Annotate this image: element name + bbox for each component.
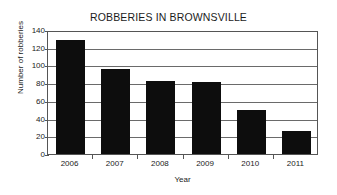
x-tick-label: 2007 bbox=[95, 159, 135, 168]
chart-title: ROBBERIES IN BROWNSVILLE bbox=[0, 11, 337, 23]
x-tick-mark bbox=[183, 155, 184, 159]
x-tick-label: 2008 bbox=[140, 159, 180, 168]
x-tick-mark bbox=[273, 155, 274, 159]
y-tick-label: 120 bbox=[5, 45, 45, 53]
gridline bbox=[48, 137, 317, 138]
bar bbox=[56, 40, 85, 154]
x-tick-label: 2006 bbox=[50, 159, 90, 168]
x-tick-mark bbox=[137, 155, 138, 159]
y-axis-ticks: 020406080100120140 bbox=[0, 31, 45, 155]
x-tick-mark bbox=[92, 155, 93, 159]
plot-area bbox=[47, 31, 318, 155]
y-tick-label: 40 bbox=[5, 116, 45, 124]
x-axis-title: Year bbox=[47, 175, 318, 184]
y-tick-label: 60 bbox=[5, 98, 45, 106]
gridline bbox=[48, 120, 317, 121]
x-axis-ticks: 200620072008200920102011 bbox=[47, 159, 318, 173]
gridline bbox=[48, 102, 317, 103]
bar bbox=[192, 82, 221, 154]
y-tick-label: 100 bbox=[5, 62, 45, 70]
y-tick-label: 80 bbox=[5, 80, 45, 88]
bar bbox=[282, 131, 311, 154]
gridline bbox=[48, 66, 317, 67]
gridline bbox=[48, 84, 317, 85]
bar bbox=[101, 69, 130, 154]
y-tick-label: 140 bbox=[5, 27, 45, 35]
gridline bbox=[48, 49, 317, 50]
bar-chart-figure: ROBBERIES IN BROWNSVILLE Number of robbe… bbox=[0, 0, 337, 195]
y-tick-label: 0 bbox=[5, 151, 45, 159]
x-tick-mark bbox=[228, 155, 229, 159]
y-tick-mark bbox=[45, 155, 49, 156]
x-tick-label: 2009 bbox=[185, 159, 225, 168]
bar bbox=[146, 81, 175, 155]
x-tick-label: 2011 bbox=[275, 159, 315, 168]
bar bbox=[237, 110, 266, 154]
y-tick-label: 20 bbox=[5, 133, 45, 141]
x-tick-label: 2010 bbox=[230, 159, 270, 168]
